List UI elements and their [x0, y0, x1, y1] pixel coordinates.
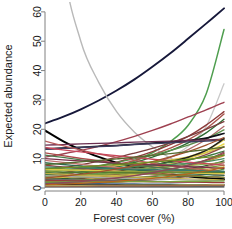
y-tick-label-60: 60 [31, 6, 43, 18]
x-axis-title: Forest cover (%) [93, 212, 174, 224]
y-tick-label-50: 50 [31, 35, 43, 47]
y-tick-label-0: 0 [31, 185, 43, 191]
y-tick-label-20: 20 [31, 123, 43, 135]
x-tick-label-40: 40 [111, 196, 123, 208]
chart-figure: 0102030405060020406080100 Forest cover (… [0, 0, 232, 229]
plot-background [0, 0, 232, 229]
y-axis-title: Expected abundance [2, 44, 14, 147]
x-tick-label-20: 20 [75, 196, 87, 208]
y-tick-label-10: 10 [31, 153, 43, 165]
y-tick-label-30: 30 [31, 94, 43, 106]
x-tick-label-100: 100 [215, 196, 232, 208]
x-tick-label-0: 0 [42, 196, 48, 208]
y-tick-label-40: 40 [31, 65, 43, 77]
x-tick-label-60: 60 [147, 196, 159, 208]
x-tick-label-80: 80 [182, 196, 194, 208]
spaghetti-plot: 0102030405060020406080100 Forest cover (… [0, 0, 232, 229]
